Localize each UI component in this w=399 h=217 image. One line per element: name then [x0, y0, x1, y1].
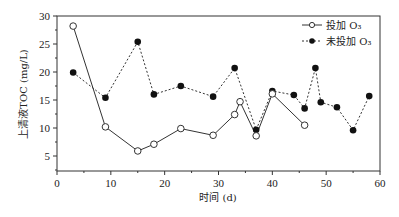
x-axis-ticks: 0102030405060 [54, 171, 386, 189]
y-axis-ticks: 51015202530 [39, 10, 57, 170]
series-line-no-ozone [73, 42, 369, 130]
x-tick-label: 20 [159, 177, 171, 189]
x-tick-label: 30 [213, 177, 225, 189]
data-point-no-ozone [134, 38, 141, 45]
y-tick-label: 25 [39, 38, 51, 50]
data-point-ozone [134, 148, 141, 155]
data-point-no-ozone [102, 94, 109, 101]
data-point-ozone [253, 133, 260, 140]
legend-item-no-ozone: 未投加 O₃ [302, 35, 371, 47]
data-point-no-ozone [253, 126, 260, 133]
x-axis-title: 时间 (d) [199, 191, 236, 203]
toc-line-chart: 0102030405060 51015202530 时间 (d) 上清液TOC … [0, 0, 399, 217]
y-axis-title: 上清液TOC (mg/L) [17, 49, 29, 138]
legend-label: 未投加 O₃ [326, 35, 371, 47]
data-point-no-ozone [151, 91, 158, 98]
data-point-ozone [178, 125, 185, 132]
data-point-no-ozone [366, 93, 373, 100]
data-point-ozone [269, 91, 276, 98]
data-point-no-ozone [334, 104, 341, 111]
legend: 投加 O₃ 未投加 O₃ [302, 19, 371, 47]
data-point-no-ozone [291, 92, 298, 99]
data-point-no-ozone [312, 65, 319, 72]
data-point-no-ozone [231, 65, 238, 72]
data-point-ozone [210, 132, 217, 139]
data-point-no-ozone [301, 105, 308, 112]
legend-item-ozone: 投加 O₃ [302, 19, 361, 31]
data-point-no-ozone [210, 93, 217, 100]
data-point-no-ozone [178, 83, 185, 90]
y-tick-label: 20 [39, 66, 51, 78]
y-tick-label: 5 [45, 150, 51, 162]
x-tick-label: 0 [54, 177, 60, 189]
x-tick-label: 10 [105, 177, 117, 189]
data-point-ozone [301, 122, 308, 129]
y-tick-label: 15 [39, 94, 51, 106]
x-tick-label: 60 [375, 177, 387, 189]
data-point-no-ozone [70, 69, 77, 76]
data-point-ozone [151, 141, 158, 148]
filled-circle-icon [309, 38, 315, 44]
y-tick-label: 30 [39, 10, 51, 22]
data-point-ozone [102, 124, 109, 131]
open-circle-icon [309, 22, 314, 27]
data-point-no-ozone [317, 99, 324, 106]
data-point-no-ozone [350, 127, 357, 134]
data-point-ozone [237, 98, 244, 105]
data-point-ozone [231, 111, 238, 118]
x-tick-label: 50 [321, 177, 333, 189]
x-tick-label: 40 [267, 177, 279, 189]
legend-label: 投加 O₃ [326, 19, 361, 31]
data-point-ozone [70, 23, 77, 30]
y-tick-label: 10 [39, 122, 51, 134]
